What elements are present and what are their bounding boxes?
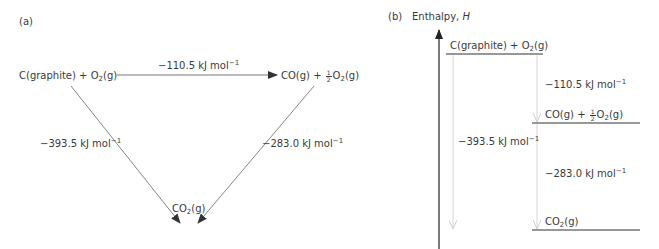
edge-value: −110.5	[158, 60, 195, 71]
node-product-suffix: (g)	[191, 203, 205, 214]
level-suffix: (g)	[609, 109, 623, 120]
edge-label-reactants-intermediate: −110.5 kJ mol−1	[158, 60, 239, 72]
change-value: −110.5	[545, 79, 582, 90]
change-label-total: −393.5 kJ mol−1	[458, 136, 539, 148]
edge-label-reactants-product: −393.5 kJ mol−1	[40, 138, 121, 150]
edge-unit-exponent: −1	[229, 59, 239, 67]
arrow-intermediate-to-product	[198, 86, 314, 223]
change-unit-exponent: −1	[616, 167, 626, 175]
edge-value: −393.5	[40, 138, 77, 149]
node-product: CO2(g)	[172, 203, 205, 215]
change-unit: kJ mol	[495, 136, 529, 147]
edge-unit: kJ mol	[299, 138, 333, 149]
change-unit-exponent: −1	[529, 135, 539, 143]
axis-label-symbol: H	[462, 11, 470, 22]
axis-label-text: Enthalpy,	[412, 11, 462, 22]
edge-unit: kJ mol	[77, 138, 111, 149]
level-label-reactants: C(graphite) + O2(g)	[450, 40, 548, 52]
change-label-step1: −110.5 kJ mol−1	[545, 79, 626, 91]
edge-unit-exponent: −1	[111, 137, 121, 145]
level-prefix: CO	[545, 216, 560, 227]
panel-a-label: (a)	[19, 16, 33, 28]
change-label-step2: −283.0 kJ mol−1	[545, 168, 626, 180]
change-value: −283.0	[545, 168, 582, 179]
fraction-denominator: 2	[326, 77, 332, 83]
level-label-product: CO2(g)	[545, 216, 578, 228]
edge-unit: kJ mol	[195, 60, 229, 71]
half-fraction: 12	[590, 109, 596, 122]
node-reactants-prefix: C(graphite) + O	[19, 70, 99, 81]
change-value: −393.5	[458, 136, 495, 147]
node-reactants-suffix: (g)	[103, 70, 117, 81]
change-unit: kJ mol	[582, 79, 616, 90]
arrow-reactants-to-product	[71, 86, 180, 223]
panel-b-label: (b)	[388, 11, 402, 23]
node-intermediate: CO(g) + 12O2(g)	[281, 70, 359, 83]
edge-value: −283.0	[262, 138, 299, 149]
level-suffix: (g)	[564, 216, 578, 227]
fraction-denominator: 2	[590, 116, 596, 122]
level-suffix: (g)	[534, 40, 548, 51]
change-unit-exponent: −1	[616, 78, 626, 86]
level-prefix: CO(g) +	[545, 109, 589, 120]
node-intermediate-suffix: (g)	[345, 70, 359, 81]
node-reactants: C(graphite) + O2(g)	[19, 70, 117, 82]
node-product-prefix: CO	[172, 203, 187, 214]
level-label-intermediate: CO(g) + 12O2(g)	[545, 109, 623, 122]
node-intermediate-prefix: CO(g) +	[281, 70, 325, 81]
diagram-canvas	[0, 0, 659, 249]
edge-unit-exponent: −1	[333, 137, 343, 145]
level-prefix: C(graphite) + O	[450, 40, 530, 51]
edge-label-intermediate-product: −283.0 kJ mol−1	[262, 138, 343, 150]
half-fraction: 12	[326, 70, 332, 83]
change-unit: kJ mol	[582, 168, 616, 179]
enthalpy-axis-label: Enthalpy, H	[412, 11, 470, 23]
